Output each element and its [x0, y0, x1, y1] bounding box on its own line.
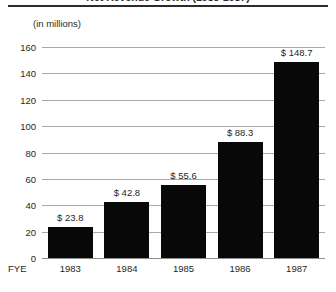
chart-page: { "header": { "clipped_title": "Net Reve…	[0, 0, 336, 292]
bar: $ 88.3	[218, 142, 263, 258]
x-axis-tick-label: 1985	[173, 263, 194, 274]
x-axis-tick-label: 1983	[60, 263, 81, 274]
y-axis-tick-label: 40	[2, 200, 36, 211]
title-divider	[8, 5, 328, 7]
x-axis-tick-label: 1987	[286, 263, 307, 274]
bar-value-label: $ 23.8	[57, 212, 83, 223]
bar-value-label: $ 42.8	[114, 187, 140, 198]
y-axis-tick-label: 0	[2, 253, 36, 264]
x-axis-tick-label: 1984	[116, 263, 137, 274]
bar-value-label: $ 148.7	[281, 47, 313, 58]
y-axis-tick-label: 60	[2, 173, 36, 184]
y-axis-tick-label: 160	[2, 42, 36, 53]
bar-value-label: $ 55.6	[170, 170, 196, 181]
bar: $ 23.8	[48, 227, 93, 258]
x-axis-tick-label: 1986	[230, 263, 251, 274]
page-title: Net Revenue Growth (1983-1987)	[8, 0, 328, 4]
bar: $ 148.7	[274, 62, 319, 258]
plot-area: 020406080100120140160$ 23.8$ 42.8$ 55.6$…	[42, 47, 325, 258]
y-axis-tick-label: 80	[2, 147, 36, 158]
y-axis-tick-label: 20	[2, 226, 36, 237]
y-axis-tick-label: 120	[2, 94, 36, 105]
bar: $ 55.6	[161, 185, 206, 258]
bar-value-label: $ 88.3	[227, 127, 253, 138]
chart-subtitle: (in millions)	[33, 18, 81, 29]
x-axis-label: FYE	[8, 263, 26, 274]
y-axis-tick-label: 100	[2, 121, 36, 132]
bar: $ 42.8	[104, 202, 149, 258]
y-axis-tick-label: 140	[2, 68, 36, 79]
x-axis-baseline: 0	[42, 258, 325, 259]
